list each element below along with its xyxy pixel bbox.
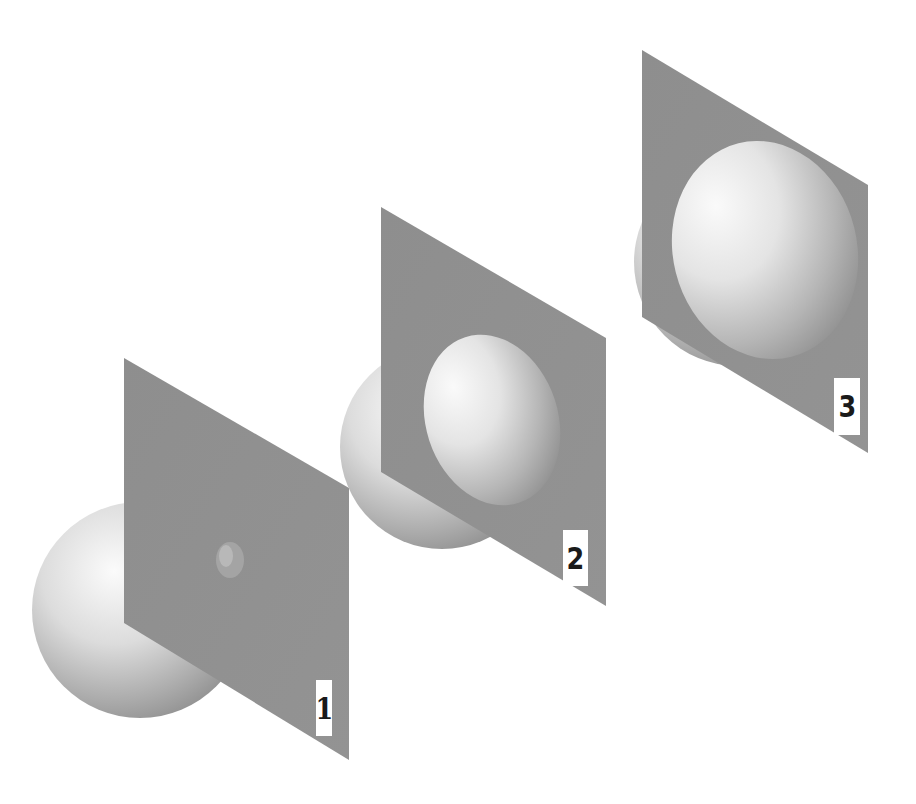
- diagram-canvas: [0, 0, 916, 804]
- stage-label-2: 2: [563, 530, 588, 586]
- stage-label-1: 1: [316, 680, 332, 736]
- stage-1: [32, 358, 349, 760]
- stage-label-1-text: 1: [315, 691, 333, 726]
- sphere-1-cap-highlight: [219, 545, 233, 567]
- stage-label-2-text: 2: [567, 541, 585, 576]
- stage-label-3: 3: [834, 378, 860, 435]
- stage-label-3-text: 3: [838, 389, 856, 424]
